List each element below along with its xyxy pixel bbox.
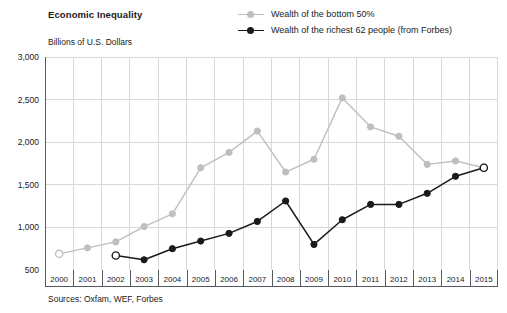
x-tick-label-2004: 2004 — [164, 270, 182, 284]
line-chart-svg — [45, 57, 498, 270]
data-point-1-2012 — [396, 201, 402, 207]
data-point-0-2007 — [254, 128, 260, 134]
data-point-1-2013 — [424, 190, 430, 196]
x-axis-separator-8 — [272, 270, 273, 286]
x-axis-separator-6 — [215, 270, 216, 286]
data-point-1-2014 — [452, 173, 458, 179]
x-tick-label-2006: 2006 — [220, 270, 238, 284]
x-axis-separator-1 — [73, 270, 74, 286]
x-tick-label-2007: 2007 — [248, 270, 266, 284]
data-point-1-2006 — [226, 230, 232, 236]
sources-note: Sources: Oxfam, WEF, Forbes — [48, 294, 163, 304]
data-point-0-2002 — [113, 239, 119, 245]
chart-legend: Wealth of the bottom 50% Wealth of the r… — [238, 6, 504, 38]
data-point-1-2010 — [339, 217, 345, 223]
page-title: Economic Inequality — [48, 9, 142, 20]
legend-item-richest-62: Wealth of the richest 62 people (from Fo… — [238, 22, 504, 38]
data-point-0-2008 — [283, 169, 289, 175]
x-axis-separator-9 — [300, 270, 301, 286]
data-point-0-2012 — [396, 133, 402, 139]
x-tick-label-2013: 2013 — [418, 270, 436, 284]
data-point-1-2003 — [141, 257, 147, 263]
x-tick-label-2002: 2002 — [107, 270, 125, 284]
x-axis-separator-13 — [413, 270, 414, 286]
x-tick-label-2011: 2011 — [362, 270, 379, 284]
plot-area: 5001,0001,5002,0002,5003,000 20002001200… — [45, 57, 498, 270]
data-point-0-2010 — [339, 95, 345, 101]
y-tick-label-1500: 1,500 — [18, 181, 39, 190]
y-tick-label-3000: 3,000 — [18, 53, 39, 62]
data-point-0-2014 — [452, 158, 458, 164]
data-point-0-2009 — [311, 156, 317, 162]
y-tick-label-2500: 2,500 — [18, 95, 39, 104]
data-point-1-2007 — [254, 218, 260, 224]
x-axis-separator-11 — [356, 270, 357, 286]
x-axis-separator-15 — [470, 270, 471, 286]
x-axis-separator-5 — [187, 270, 188, 286]
x-tick-label-2005: 2005 — [192, 270, 210, 284]
legend-label-richest-62: Wealth of the richest 62 people (from Fo… — [271, 25, 452, 36]
x-tick-label-2015: 2015 — [475, 270, 493, 284]
data-point-1-2011 — [367, 201, 373, 207]
x-axis-separator-14 — [441, 270, 442, 286]
data-point-0-2000 — [56, 250, 63, 257]
data-point-0-2003 — [141, 223, 147, 229]
data-point-0-2013 — [424, 161, 430, 167]
x-axis-baseline — [45, 286, 498, 287]
x-tick-label-2012: 2012 — [390, 270, 408, 284]
data-point-0-2006 — [226, 149, 232, 155]
data-point-1-2009 — [311, 241, 317, 247]
data-point-1-2015 — [480, 164, 487, 171]
data-point-1-2005 — [198, 238, 204, 244]
x-axis-separator-12 — [385, 270, 386, 286]
data-point-1-2004 — [169, 246, 175, 252]
x-axis-separator-end — [497, 270, 498, 286]
data-point-0-2005 — [198, 165, 204, 171]
x-tick-label-2000: 2000 — [50, 270, 68, 284]
x-axis-separator-3 — [130, 270, 131, 286]
legend-marker-bottom-50-icon — [238, 8, 264, 20]
y-axis-title: Billions of U.S. Dollars — [48, 37, 132, 47]
data-point-0-2011 — [367, 124, 373, 130]
x-tick-label-2010: 2010 — [333, 270, 351, 284]
x-axis-separator-7 — [243, 270, 244, 286]
y-tick-label-500: 500 — [25, 266, 39, 275]
x-axis-separator-4 — [158, 270, 159, 286]
x-axis-separator-0 — [45, 270, 46, 286]
y-tick-label-1000: 1,000 — [18, 223, 39, 232]
legend-marker-richest-62-icon — [238, 24, 264, 36]
x-axis-separator-10 — [328, 270, 329, 286]
legend-label-bottom-50: Wealth of the bottom 50% — [271, 9, 374, 20]
x-tick-label-2009: 2009 — [305, 270, 323, 284]
data-point-0-2004 — [169, 211, 175, 217]
data-point-1-2002 — [112, 252, 119, 259]
legend-item-bottom-50: Wealth of the bottom 50% — [238, 6, 504, 22]
data-point-0-2001 — [84, 245, 90, 251]
chart-screenshot: Economic Inequality Wealth of the bottom… — [0, 0, 507, 313]
y-tick-label-2000: 2,000 — [18, 138, 39, 147]
data-point-1-2008 — [283, 198, 289, 204]
x-tick-label-2001: 2001 — [79, 270, 97, 284]
x-tick-label-2014: 2014 — [447, 270, 465, 284]
x-axis-separator-2 — [102, 270, 103, 286]
x-tick-label-2003: 2003 — [135, 270, 153, 284]
x-tick-label-2008: 2008 — [277, 270, 295, 284]
